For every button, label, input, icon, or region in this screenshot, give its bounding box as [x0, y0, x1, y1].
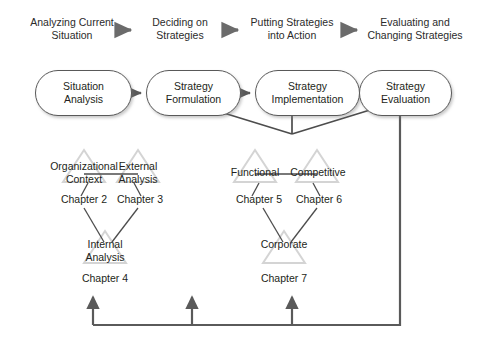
cluster-node-corporate[interactable]: Corporate: [253, 238, 315, 251]
chapter-label-7[interactable]: Chapter 7: [248, 272, 320, 285]
cluster-legs-left: [81, 183, 141, 242]
stage-situation-analysis[interactable]: Situation Analysis: [35, 70, 132, 116]
stage-strategy-evaluation[interactable]: Strategy Evaluation: [359, 70, 452, 116]
chapter-label-3[interactable]: Chapter 3: [104, 193, 176, 206]
chapter-label-6[interactable]: Chapter 6: [283, 193, 355, 206]
phase-label-deciding: Deciding on Strategies: [138, 16, 222, 42]
cluster-node-competitive[interactable]: Competitive: [284, 166, 352, 179]
stage-strategy-implementation[interactable]: Strategy Implementation: [255, 70, 360, 116]
phase-label-analyzing: Analyzing Current Situation: [24, 16, 120, 42]
cluster-node-functional[interactable]: Functional: [224, 166, 286, 179]
cluster-node-internal-analysis[interactable]: Internal Analysis: [72, 238, 138, 264]
chapter-label-4[interactable]: Chapter 4: [69, 272, 141, 285]
cluster-node-external-analysis[interactable]: External Analysis: [105, 160, 171, 186]
phase-label-putting: Putting Strategies into Action: [242, 16, 342, 42]
cluster-legs-right: [252, 183, 320, 242]
stage-strategy-formulation[interactable]: Strategy Formulation: [146, 70, 241, 116]
feedback-loop: [93, 110, 400, 325]
phase-label-evaluating: Evaluating and Changing Strategies: [358, 16, 472, 42]
diagram-canvas: Analyzing Current Situation Deciding on …: [0, 0, 482, 352]
